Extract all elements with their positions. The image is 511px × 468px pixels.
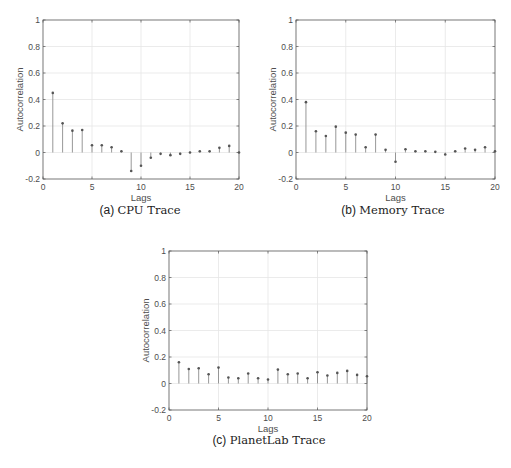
- stem-marker: [364, 146, 367, 149]
- x-tick-label: 0: [294, 182, 299, 192]
- chart-cpu-trace: 05101520-0.200.20.40.60.81LagsAutocorrel…: [0, 0, 255, 230]
- stem-series: [178, 361, 369, 384]
- x-axis-label: Lags: [385, 192, 406, 203]
- stem-marker: [189, 151, 192, 154]
- y-axis-label: Autocorrelation: [14, 68, 25, 132]
- stem-marker: [434, 151, 437, 154]
- stem-marker: [61, 122, 64, 125]
- stem-marker: [326, 374, 329, 377]
- stem-marker: [366, 375, 369, 378]
- chart-memory-trace: 05101520-0.200.20.40.60.81LagsAutocorrel…: [255, 0, 511, 230]
- x-tick-label: 5: [216, 413, 221, 423]
- stem-marker: [179, 153, 182, 156]
- stem-marker: [336, 372, 339, 375]
- stem-marker: [356, 374, 359, 377]
- y-tick-label: -0.2: [278, 174, 293, 184]
- y-tick-label: 0.6: [28, 68, 40, 78]
- stem-marker: [444, 153, 447, 156]
- stem-marker: [207, 373, 210, 376]
- ticks: 05101520-0.200.20.40.60.81: [278, 15, 500, 192]
- stem-marker: [315, 130, 318, 133]
- y-tick-label: 0: [288, 148, 293, 158]
- y-tick-label: -0.2: [151, 405, 166, 415]
- stem-marker: [228, 145, 231, 148]
- stem-marker: [91, 144, 94, 147]
- y-axis-label: Autocorrelation: [267, 68, 278, 132]
- stem-marker: [277, 368, 280, 371]
- stem-marker: [267, 378, 270, 381]
- x-tick-label: 5: [90, 182, 95, 192]
- stem-marker: [346, 370, 349, 373]
- x-tick-label: 0: [41, 182, 46, 192]
- stem-marker: [237, 377, 240, 380]
- grid: [169, 251, 367, 410]
- y-tick-label: 0.2: [154, 352, 166, 362]
- stem-marker: [159, 153, 162, 156]
- x-tick-label: 15: [185, 182, 195, 192]
- stem-marker: [257, 377, 260, 380]
- stem-marker: [140, 164, 143, 167]
- stem-marker: [120, 150, 123, 153]
- stem-marker: [150, 157, 153, 160]
- stem-marker: [384, 149, 387, 152]
- stem-marker: [316, 371, 319, 374]
- y-tick-label: 0.4: [28, 95, 40, 105]
- stem-marker: [218, 147, 221, 150]
- y-tick-label: 1: [35, 15, 40, 25]
- y-tick-label: 0.8: [28, 42, 40, 52]
- stem-marker: [305, 101, 308, 104]
- chart-planetlab-trace: 05101520-0.200.20.40.60.81LagsAutocorrel…: [130, 235, 390, 468]
- stem-marker: [335, 125, 338, 128]
- stem-marker: [296, 372, 299, 375]
- stem-marker: [464, 147, 467, 150]
- y-tick-label: 0.2: [281, 121, 293, 131]
- x-tick-label: 15: [441, 182, 451, 192]
- stem-marker: [287, 373, 290, 376]
- caption-name: PlanetLab Trace: [230, 433, 326, 447]
- caption-planetlab-trace: (c) PlanetLab Trace: [130, 433, 408, 447]
- stem-marker: [52, 92, 55, 95]
- y-tick-label: 0.2: [28, 121, 40, 131]
- stem-marker: [208, 150, 211, 153]
- stem-marker: [306, 377, 309, 380]
- stem-marker: [130, 170, 133, 173]
- y-tick-label: 0.8: [281, 42, 293, 52]
- stem-marker: [169, 154, 172, 157]
- stem-series: [305, 101, 497, 163]
- x-axis-label: Lags: [131, 192, 152, 203]
- x-tick-label: 15: [313, 413, 323, 423]
- stem-marker: [71, 129, 74, 132]
- stem-marker: [484, 146, 487, 149]
- plot-area: 05101520-0.200.20.40.60.81LagsAutocorrel…: [255, 0, 511, 230]
- caption-tag: (c): [212, 433, 226, 447]
- x-tick-label: 20: [490, 182, 500, 192]
- stem-marker: [110, 146, 113, 149]
- y-tick-label: 0: [161, 379, 166, 389]
- x-tick-label: 10: [136, 182, 146, 192]
- y-axis-label: Autocorrelation: [140, 299, 151, 363]
- stem-marker: [404, 148, 407, 151]
- x-tick-label: 20: [234, 182, 244, 192]
- caption-name: CPU Trace: [118, 203, 181, 217]
- stem-marker: [494, 150, 497, 153]
- stem-marker: [454, 150, 457, 153]
- stem-marker: [101, 144, 104, 147]
- stem-marker: [199, 150, 202, 153]
- caption-cpu-trace: (a) CPU Trace: [0, 203, 280, 217]
- stem-marker: [325, 135, 328, 138]
- ticks: 05101520-0.200.20.40.60.81: [25, 15, 244, 192]
- x-tick-label: 10: [391, 182, 401, 192]
- x-tick-label: 5: [343, 182, 348, 192]
- stem-marker: [414, 150, 417, 153]
- stem-marker: [424, 150, 427, 153]
- y-tick-label: 0.6: [154, 299, 166, 309]
- stem-marker: [344, 131, 347, 134]
- x-tick-label: 20: [362, 413, 372, 423]
- caption-name: Memory Trace: [359, 203, 444, 217]
- stem-marker: [178, 361, 181, 364]
- x-tick-label: 10: [263, 413, 273, 423]
- stem-marker: [474, 149, 477, 152]
- stem-marker: [81, 129, 84, 132]
- caption-memory-trace: (b) Memory Trace: [255, 203, 511, 217]
- stem-marker: [188, 368, 191, 371]
